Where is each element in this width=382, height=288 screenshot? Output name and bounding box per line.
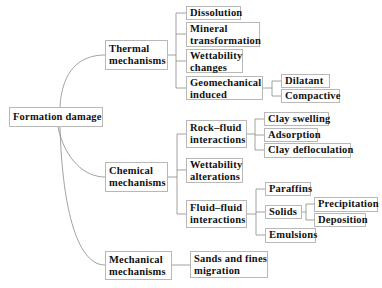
node-label: Paraffins	[269, 183, 312, 194]
node-mineral-transformation: Mineral transformation	[186, 22, 260, 47]
node-fluid-fluid-interactions: Fluid–fluid interactions	[186, 200, 247, 228]
node-emulsions: Emulsions	[265, 228, 316, 243]
node-label-line2: migration	[194, 265, 264, 277]
node-rock-fluid-interactions: Rock–fluid interactions	[186, 120, 247, 148]
node-label-line1: Wettability	[190, 50, 239, 62]
node-wettability-changes: Wettability changes	[186, 49, 243, 73]
node-thermal-mechanisms: Thermal mechanisms	[105, 40, 168, 70]
node-solids: Solids	[265, 205, 302, 219]
node-label-line1: Geomechanical	[190, 77, 259, 89]
node-precipitation: Precipitation	[314, 197, 378, 212]
node-label: Solids	[269, 206, 297, 217]
node-label-line1: Chemical	[109, 165, 164, 177]
node-label: Emulsions	[269, 229, 318, 240]
node-label-line1: Mechanical	[109, 254, 168, 266]
node-label: Clay defloculation	[268, 144, 354, 155]
node-dissolution: Dissolution	[186, 6, 241, 20]
node-sands-fines-migration: Sands and fines migration	[190, 251, 268, 278]
node-mechanical-mechanisms: Mechanical mechanisms	[105, 251, 172, 280]
node-label-line1: Mineral	[190, 23, 256, 35]
node-label: Clay swelling	[268, 113, 330, 124]
node-label-line2: alterations	[190, 171, 239, 183]
node-label-line2: transformation	[190, 35, 256, 47]
node-label-line2: induced	[190, 89, 259, 101]
node-wettability-alterations: Wettability alterations	[186, 158, 243, 183]
node-clay-swelling: Clay swelling	[264, 112, 329, 126]
node-formation-damage: Formation damage	[9, 107, 103, 127]
node-label-line2: mechanisms	[109, 266, 168, 278]
node-label: Compactive	[285, 90, 341, 101]
node-dilatant: Dilatant	[281, 74, 330, 88]
node-paraffins: Paraffins	[265, 182, 311, 196]
node-label: Formation damage	[13, 111, 102, 122]
node-label: Dissolution	[190, 7, 242, 18]
node-label-line2: interactions	[190, 134, 243, 146]
node-label-line2: mechanisms	[109, 177, 164, 189]
node-label: Dilatant	[285, 75, 323, 86]
node-label-line2: interactions	[190, 214, 243, 226]
node-chemical-mechanisms: Chemical mechanisms	[105, 162, 168, 192]
node-compactive: Compactive	[281, 89, 340, 103]
node-label-line1: Rock–fluid	[190, 122, 243, 134]
node-label-line1: Sands and fines	[194, 253, 264, 265]
node-label-line1: Thermal	[109, 43, 164, 55]
node-adsorption: Adsorption	[264, 128, 318, 142]
node-geomechanical-induced: Geomechanical induced	[186, 76, 263, 100]
node-clay-defloculation: Clay defloculation	[264, 143, 351, 158]
node-label-line2: changes	[190, 62, 239, 74]
node-label: Precipitation	[318, 198, 379, 209]
node-label-line1: Fluid–fluid	[190, 202, 243, 214]
node-deposition: Deposition	[314, 213, 366, 227]
node-label-line1: Wettability	[190, 159, 239, 171]
node-label: Adsorption	[268, 129, 321, 140]
node-label: Deposition	[318, 214, 368, 225]
node-label-line2: mechanisms	[109, 55, 164, 67]
